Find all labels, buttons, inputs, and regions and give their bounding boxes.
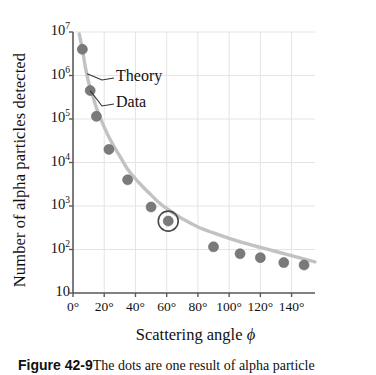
- figure-caption: Figure 42-9The dots are one result of al…: [18, 356, 364, 375]
- x-tick-label: 120°: [248, 299, 274, 315]
- figure-number: Figure 42-9: [18, 357, 93, 373]
- phi-symbol: ϕ: [247, 325, 256, 344]
- x-tick-label: 100°: [216, 299, 242, 315]
- x-tick-label: 80°: [188, 299, 207, 315]
- scattering-figure: Number of alpha particles detected 10102…: [0, 0, 376, 375]
- x-axis-title: Scattering angle ϕ: [73, 325, 318, 345]
- x-tick-label: 40°: [126, 299, 145, 315]
- x-axis-tick-labels: 0°20°40°60°80°100°120°140°: [0, 0, 376, 375]
- x-tick-label: 60°: [157, 299, 176, 315]
- x-tick-label: 20°: [95, 299, 114, 315]
- x-axis-title-text: Scattering angle: [136, 325, 247, 344]
- x-tick-label: 140°: [279, 299, 305, 315]
- x-tick-label: 0°: [67, 299, 79, 315]
- caption-text: The dots are one result of alpha particl…: [93, 358, 315, 373]
